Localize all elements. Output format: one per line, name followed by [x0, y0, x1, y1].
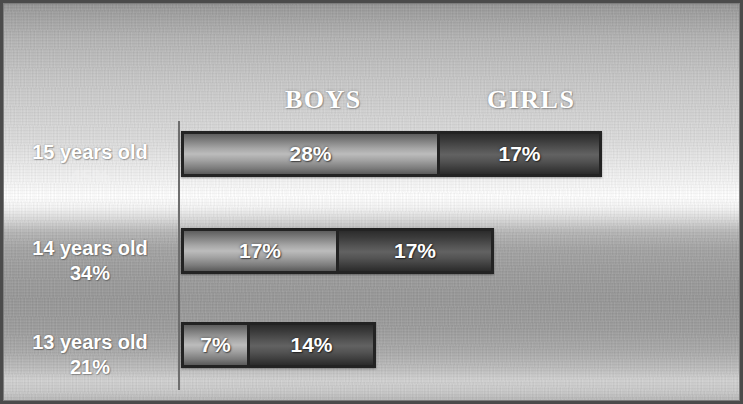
- bar-value-label: 28%: [289, 142, 331, 166]
- bar-segment-girls[interactable]: 14%: [247, 325, 373, 365]
- row-label-15-years: 15 years old 45%: [5, 140, 175, 190]
- row-total-label: 34%: [5, 261, 175, 286]
- column-header-girls: GIRLS: [487, 85, 575, 115]
- bar-value-label: 17%: [239, 239, 281, 263]
- row-age-label: 15 years old: [5, 140, 175, 165]
- row-total-label: 45%: [5, 165, 175, 190]
- bar-segment-girls[interactable]: 17%: [336, 231, 491, 271]
- bar-value-label: 7%: [200, 333, 230, 357]
- row-age-label: 13 years old: [5, 330, 175, 355]
- row-total-label: 21%: [5, 355, 175, 380]
- bar-segment-boys[interactable]: 17%: [184, 231, 336, 271]
- row-label-14-years: 14 years old 34%: [5, 236, 175, 286]
- chart-container: BOYS GIRLS 15 years old 45% 28% 17% 14 y…: [0, 0, 743, 404]
- stacked-bar-13-years[interactable]: 7% 14%: [181, 322, 376, 368]
- bar-value-label: 17%: [498, 142, 540, 166]
- bar-value-label: 17%: [394, 239, 436, 263]
- bar-value-label: 14%: [290, 333, 332, 357]
- row-age-label: 14 years old: [5, 236, 175, 261]
- stacked-bar-15-years[interactable]: 28% 17%: [181, 131, 602, 177]
- column-header-boys: BOYS: [285, 85, 362, 115]
- bar-segment-boys[interactable]: 28%: [184, 134, 437, 174]
- vertical-axis-line: [178, 121, 180, 390]
- row-label-13-years: 13 years old 21%: [5, 330, 175, 380]
- bar-segment-girls[interactable]: 17%: [437, 134, 599, 174]
- stacked-bar-14-years[interactable]: 17% 17%: [181, 228, 494, 274]
- bar-segment-boys[interactable]: 7%: [184, 325, 247, 365]
